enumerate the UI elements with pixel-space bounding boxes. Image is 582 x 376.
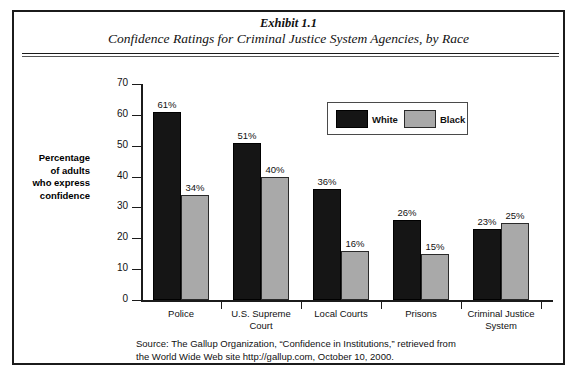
- source-line-2: the World Wide Web site http://gallup.co…: [136, 351, 536, 364]
- y-axis-tick-label: 70: [92, 77, 128, 88]
- bar-value-label: 61%: [144, 99, 190, 110]
- legend-swatch-white: [336, 110, 368, 128]
- y-axis-tick-label: 10: [92, 262, 128, 273]
- bar-value-label: 40%: [252, 164, 298, 175]
- x-axis-tick: [541, 302, 542, 309]
- legend-label-black: Black: [440, 114, 465, 125]
- x-axis-category-line: System: [453, 320, 549, 332]
- bar-value-label: 15%: [412, 241, 458, 252]
- source-note: Source: The Gallup Organization, “Confid…: [136, 338, 536, 363]
- bar-black-4: [501, 223, 529, 300]
- legend-label-white: White: [372, 114, 398, 125]
- y-axis-tick-label: 20: [92, 231, 128, 242]
- bar-black-3: [421, 254, 449, 300]
- bar-white-3: [393, 220, 421, 300]
- x-axis-category-line: Criminal Justice: [453, 308, 549, 320]
- y-axis-tick: [132, 115, 141, 116]
- x-axis-category-line: Court: [213, 320, 309, 332]
- bar-value-label: 16%: [332, 238, 378, 249]
- y-axis-tick-label: 30: [92, 200, 128, 211]
- y-axis-title-line: confidence: [14, 190, 90, 203]
- bar-value-label: 36%: [304, 176, 350, 187]
- y-axis-tick-label: 60: [92, 108, 128, 119]
- y-axis-title-line: of adults: [14, 165, 90, 178]
- chart-legend: White Black: [327, 102, 468, 135]
- bar-black-0: [181, 195, 209, 300]
- y-axis-tick: [132, 146, 141, 147]
- bar-value-label: 51%: [224, 130, 270, 141]
- y-axis-title-line: Percentage: [14, 152, 90, 165]
- y-axis-tick: [132, 238, 141, 239]
- y-axis-tick: [132, 300, 141, 301]
- x-axis-category-label: Criminal JusticeSystem: [453, 308, 549, 332]
- y-axis-tick: [132, 177, 141, 178]
- y-axis-tick-label: 40: [92, 170, 128, 181]
- bar-value-label: 34%: [172, 182, 218, 193]
- x-axis-line: [141, 300, 553, 302]
- y-axis-tick: [132, 207, 141, 208]
- y-axis-tick: [132, 269, 141, 270]
- bar-black-2: [341, 251, 369, 300]
- legend-swatch-black: [404, 110, 436, 128]
- y-axis-title: Percentageof adultswho expressconfidence: [14, 152, 90, 202]
- y-axis-title-line: who express: [14, 177, 90, 190]
- y-axis-tick-label: 50: [92, 139, 128, 150]
- bar-value-label: 25%: [492, 210, 538, 221]
- bar-black-1: [261, 177, 289, 300]
- y-axis-tick: [132, 84, 141, 85]
- bar-white-0: [153, 112, 181, 300]
- bar-chart: Percentageof adultswho expressconfidence…: [14, 12, 567, 367]
- y-axis-tick-label: 0: [92, 293, 128, 304]
- bar-value-label: 26%: [384, 207, 430, 218]
- bar-white-4: [473, 229, 501, 300]
- exhibit-frame: Exhibit 1.1 Confidence Ratings for Crimi…: [12, 10, 565, 365]
- source-line-1: Source: The Gallup Organization, “Confid…: [136, 338, 536, 351]
- y-axis-line: [141, 84, 143, 301]
